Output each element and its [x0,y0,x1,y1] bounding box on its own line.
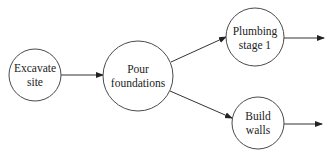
node-label-line1: Pour [127,63,149,75]
edge-foundations-to-plumbing [171,37,226,62]
node-label-line2: stage 1 [239,39,272,52]
edge-foundations-to-walls [170,91,232,118]
node-circle [232,97,284,149]
node-label-line2: walls [246,124,271,136]
node-label-line1: Build [245,110,271,122]
node-label-line1: Plumbing [233,25,278,38]
node-excavate-site: Excavate site [9,49,61,101]
node-pour-foundations: Pour foundations [103,41,173,111]
node-build-walls: Build walls [232,97,284,149]
node-circle [103,41,173,111]
network-diagram: Excavate site Pour foundations Plumbing … [0,0,332,160]
node-label-line1: Excavate [14,62,56,74]
node-circle [226,8,284,66]
node-label-line2: site [27,76,43,88]
node-plumbing-stage-1: Plumbing stage 1 [226,8,284,66]
node-circle [9,49,61,101]
node-label-line2: foundations [111,77,166,89]
